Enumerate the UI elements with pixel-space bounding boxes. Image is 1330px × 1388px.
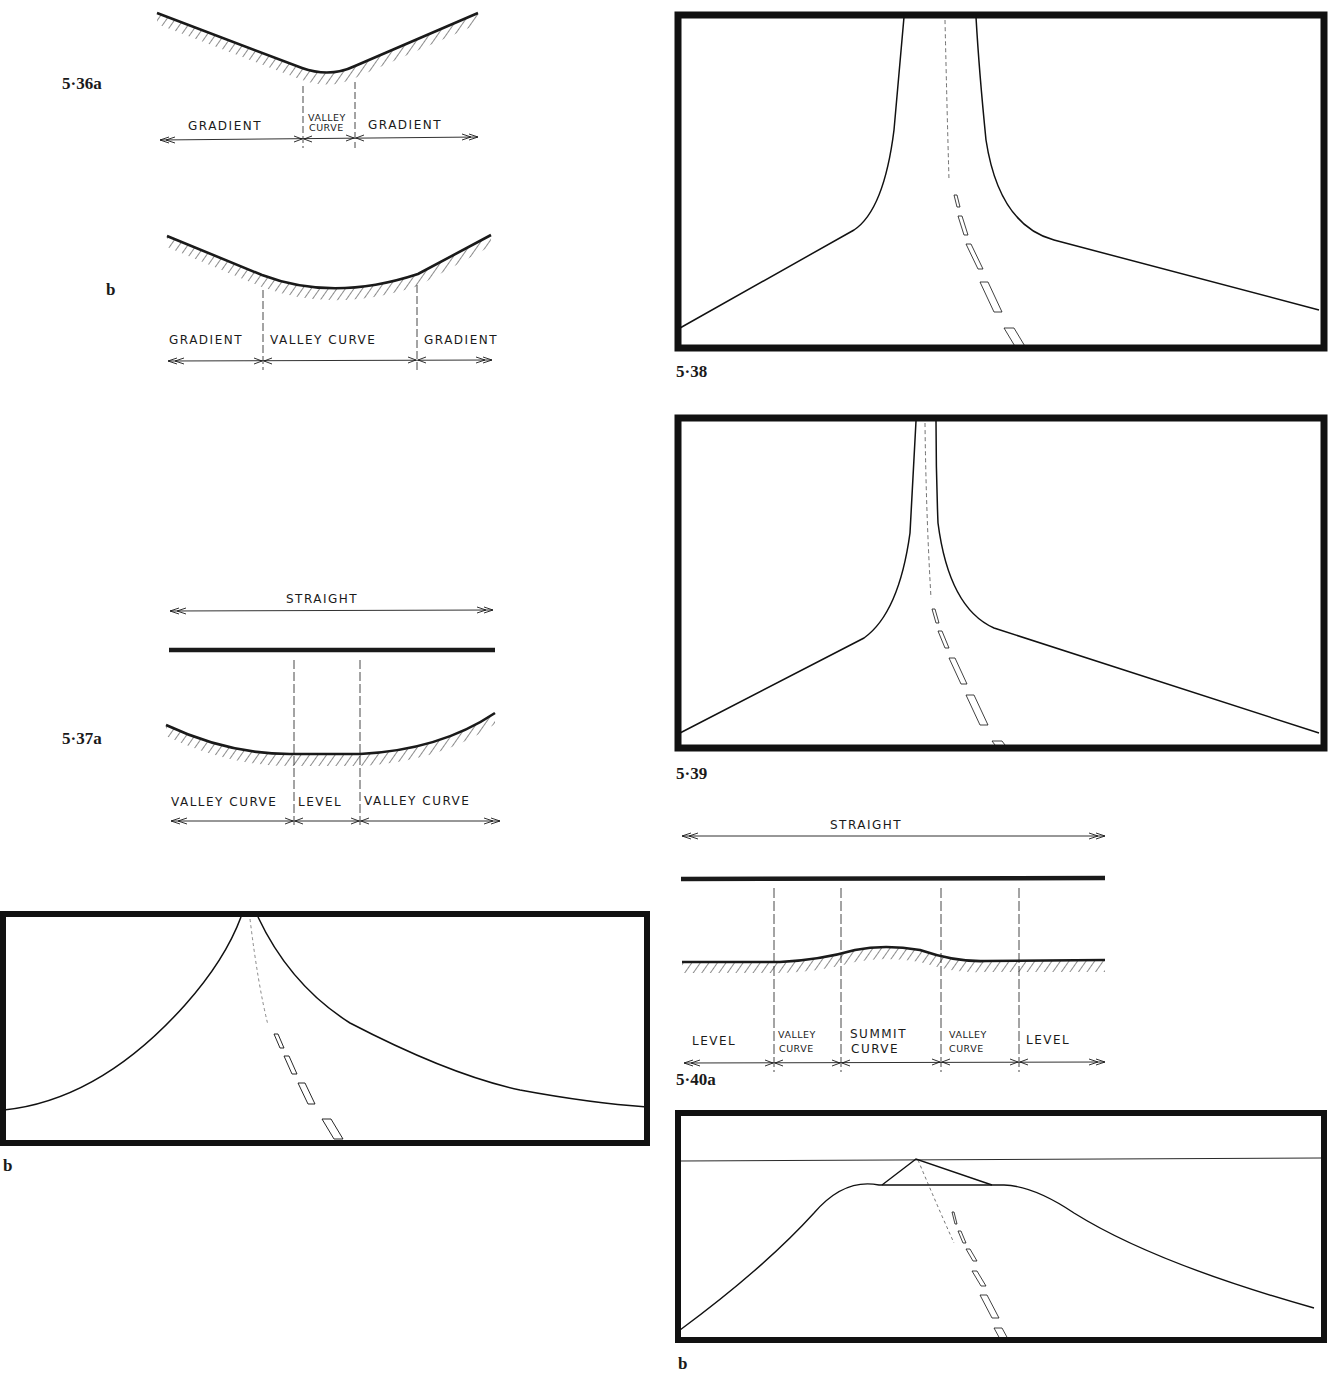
figure-label-5-38: 5·38 xyxy=(676,362,707,382)
segment-valley-1: VALLEY xyxy=(778,1029,816,1040)
straight-label: STRAIGHT xyxy=(286,592,358,606)
figure-label-5-39: 5·39 xyxy=(676,764,707,784)
segment-valley-curve-right: VALLEY CURVE xyxy=(364,794,470,808)
road-perspective-5-40b xyxy=(674,1108,1330,1348)
valley-profile-5-37a: STRAIGHT VALLEY CURVE LEVEL VALLEY CURVE xyxy=(0,0,520,850)
segment-valley-2: VALLEY xyxy=(949,1029,987,1040)
figure-label-5-40b: b xyxy=(678,1354,687,1374)
segment-level-right: LEVEL xyxy=(1026,1033,1070,1047)
road-perspective-5-37b xyxy=(0,905,660,1155)
segment-summit: SUMMIT xyxy=(850,1027,907,1041)
segment-level: LEVEL xyxy=(298,795,342,809)
segment-valley-curve-left: VALLEY CURVE xyxy=(171,795,277,809)
figure-label-5-37b: b xyxy=(3,1156,12,1176)
straight-label: STRAIGHT xyxy=(830,818,902,832)
segment-curve-2: CURVE xyxy=(851,1042,899,1056)
road-perspective-5-39 xyxy=(674,413,1330,758)
road-perspective-5-38 xyxy=(674,10,1330,355)
figure-label-5-40a: 5·40a xyxy=(676,1070,716,1090)
segment-level-left: LEVEL xyxy=(692,1034,736,1048)
segment-curve-1: CURVE xyxy=(779,1043,814,1054)
segment-curve-3: CURVE xyxy=(949,1043,984,1054)
summit-profile-5-40a: STRAIGHT LEVEL VALLEY CURVE SUMMIT CURVE… xyxy=(670,810,1130,1080)
